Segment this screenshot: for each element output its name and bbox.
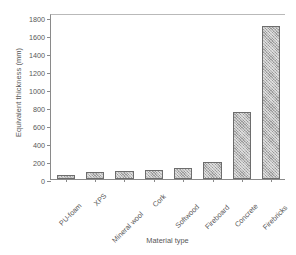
x-tick-mark bbox=[154, 179, 155, 182]
x-tick-label: XPS bbox=[99, 184, 116, 201]
y-tick-label: 1000 bbox=[29, 87, 45, 96]
bar-softwood bbox=[174, 168, 192, 179]
y-tick-label: 400 bbox=[33, 141, 45, 150]
y-tick-label: 200 bbox=[33, 159, 45, 168]
x-tick-label: Concrete bbox=[250, 184, 277, 211]
y-tick-label: 1200 bbox=[29, 69, 45, 78]
x-tick-label-text: Fireboard bbox=[203, 203, 231, 231]
x-tick-label-text: Concrete bbox=[233, 202, 260, 229]
y-tick-label: 800 bbox=[33, 105, 45, 114]
y-tick-label: 600 bbox=[33, 123, 45, 132]
bar-firebricks bbox=[262, 26, 280, 179]
y-tick-label: 1800 bbox=[29, 15, 45, 24]
y-axis-title: Equivalent thickness (mm) bbox=[14, 23, 23, 163]
bar-fireboard bbox=[203, 162, 221, 179]
bar-concrete bbox=[233, 112, 251, 179]
bar-xps bbox=[86, 172, 104, 179]
bar-chart-figure: Equivalent thickness (mm) 02004006008001… bbox=[0, 0, 296, 255]
x-tick-label: Firebricks bbox=[280, 184, 296, 212]
y-tick-label: 1600 bbox=[29, 33, 45, 42]
x-tick-label-text: Firebricks bbox=[261, 203, 289, 231]
bar-series bbox=[51, 15, 285, 179]
bar-mineral-wool bbox=[115, 171, 133, 179]
plot-area: 020040060080010001200140016001800 PU-foa… bbox=[50, 14, 285, 180]
x-tick-mark bbox=[213, 179, 214, 182]
x-tick-mark bbox=[183, 179, 184, 182]
x-tick-mark bbox=[271, 179, 272, 182]
x-tick-label-text: PU-foam bbox=[57, 201, 83, 227]
y-tick-label: 1400 bbox=[29, 51, 45, 60]
x-tick-mark bbox=[66, 179, 67, 182]
x-tick-mark bbox=[95, 179, 96, 182]
x-tick-label: Softwood bbox=[192, 184, 220, 212]
x-tick-mark bbox=[242, 179, 243, 182]
x-axis-title: Material type bbox=[50, 236, 285, 245]
y-tick-mark bbox=[47, 181, 51, 182]
bar-cork bbox=[145, 170, 163, 179]
y-tick-label: 0 bbox=[41, 177, 45, 186]
x-tick-mark bbox=[124, 179, 125, 182]
x-tick-label-text: Softwood bbox=[174, 202, 202, 230]
